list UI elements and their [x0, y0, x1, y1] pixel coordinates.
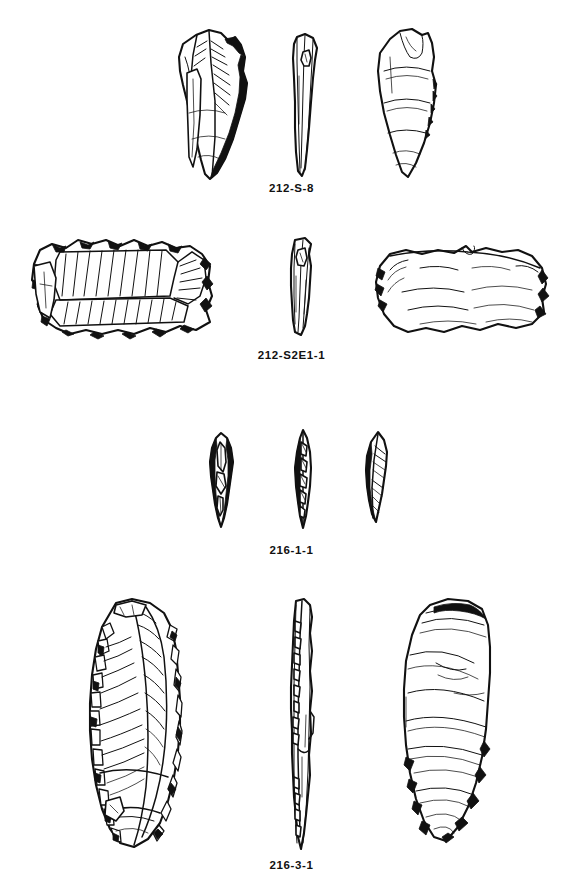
- specimen-3-label: 216-1-1: [0, 544, 583, 556]
- specimen-2-label: 212-S2E1-1: [0, 349, 583, 361]
- specimen-3-dorsal-view: [203, 430, 241, 530]
- specimen-1-ventral-view: [360, 27, 452, 182]
- specimen-3-profile-view: [289, 428, 317, 534]
- specimen-4-dorsal-view: [76, 597, 196, 852]
- specimen-2-profile-view: [281, 236, 323, 340]
- lithic-artifact-plate: 212-S-8: [0, 0, 583, 893]
- specimen-2-ventral-view: [368, 240, 553, 337]
- specimen-4-ventral-view: [392, 597, 502, 849]
- specimen-4-label: 216-3-1: [0, 859, 583, 871]
- specimen-4-profile-view: [282, 597, 322, 855]
- specimen-1-dorsal-view: [163, 27, 263, 182]
- specimen-3-ventral-view: [358, 430, 396, 528]
- specimen-1-label: 212-S-8: [0, 182, 583, 194]
- specimen-row: 212-S-8: [0, 0, 583, 200]
- specimen-1-profile-view: [283, 32, 327, 180]
- specimen-2-dorsal-view: [20, 232, 220, 340]
